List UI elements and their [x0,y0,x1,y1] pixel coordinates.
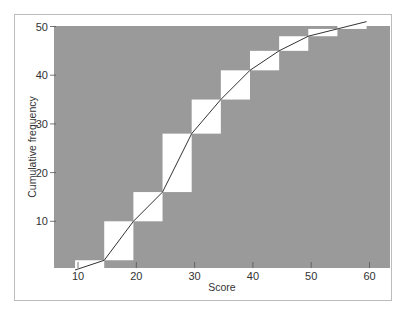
x-tick-label: 30 [188,270,200,282]
x-tick-label: 40 [247,270,259,282]
x-axis-title: Score [208,281,236,293]
x-tick-label: 50 [305,270,317,282]
y-axis-title: Cumulative frequency [26,95,38,197]
x-tick-label: 20 [130,270,142,282]
x-tick-label: 60 [363,270,375,282]
y-tick-label: 40 [36,69,48,81]
y-tick-label: 50 [36,21,48,33]
y-tick-label: 10 [36,215,48,227]
x-tick-label: 10 [72,270,84,282]
cumulative-frequency-chart: 1020304050 102030405060 Score Cumulative… [0,0,410,312]
y-axis-ticks: 1020304050 [36,21,56,228]
